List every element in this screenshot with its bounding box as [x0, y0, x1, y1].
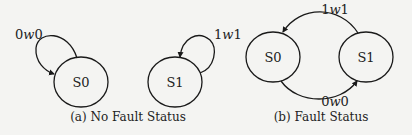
state-label: S1: [166, 75, 183, 90]
state-label: S0: [72, 75, 89, 90]
caption-a: (a) No Fault Status: [70, 110, 186, 124]
transition-label-1w1-a: 1w1: [214, 27, 242, 42]
state-s0-b: S0: [246, 32, 300, 82]
subfigure-b-fault: S0 S1 1w1 0w0 (b) Fault Status: [246, 2, 393, 124]
state-diagram-figure: S0 0w0 S1 1w1 (a) No Fault Status S0 S1 …: [0, 0, 412, 135]
subfigure-a-no-fault: S0 0w0 S1 1w1 (a) No Fault Status: [15, 27, 242, 124]
transition-label-0w0-a: 0w0: [15, 27, 43, 42]
caption-b: (b) Fault Status: [274, 110, 369, 124]
transition-label-1w1-b: 1w1: [321, 2, 349, 17]
state-s1-b: S1: [339, 32, 393, 82]
state-label: S1: [357, 50, 374, 65]
state-s0-a: S0: [54, 57, 108, 107]
state-s1-a: S1: [148, 57, 202, 107]
state-label: S0: [264, 50, 281, 65]
transition-label-0w0-b: 0w0: [321, 94, 349, 109]
